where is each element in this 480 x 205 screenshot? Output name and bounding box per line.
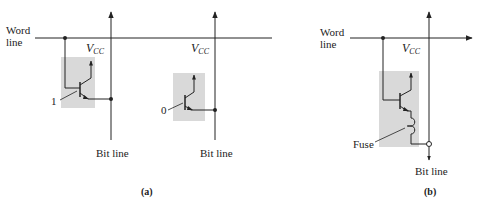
bit-line-label-2: Bit line [200, 147, 233, 159]
vcc-subscript: CC [409, 47, 420, 56]
bit-line-label-b: Bit line [415, 165, 448, 177]
stored-bit-1: 1 [51, 95, 57, 107]
caption-a: (a) [141, 186, 153, 198]
word-line-label-b: Word line [320, 26, 344, 50]
vcc-subscript: CC [93, 47, 104, 56]
bit-line-label-1: Bit line [96, 147, 129, 159]
word-line-label-line1: Word [6, 24, 30, 36]
junction-dot [109, 97, 113, 101]
word-line-label-line1: Word [320, 26, 344, 38]
panel-a [35, 12, 272, 140]
vcc-label-cell-1: VCC [86, 42, 104, 58]
cell-b-box [379, 71, 419, 147]
stored-bit-0: 0 [161, 104, 167, 116]
rom-cell-diagram [0, 0, 480, 205]
vcc-label-cell-2: VCC [191, 42, 209, 58]
caption-b: (b) [424, 186, 436, 198]
cell-2-box [173, 73, 205, 121]
cell-1-box [61, 57, 95, 108]
word-line-label-line2: line [320, 38, 344, 50]
fuse-label: Fuse [353, 138, 374, 150]
word-line-label-a: Word line [6, 24, 30, 48]
word-line-label-line2: line [6, 36, 30, 48]
vcc-label-b: VCC [402, 42, 420, 58]
bit-line-node [427, 142, 432, 147]
junction-dot [213, 108, 217, 112]
vcc-subscript: CC [198, 47, 209, 56]
